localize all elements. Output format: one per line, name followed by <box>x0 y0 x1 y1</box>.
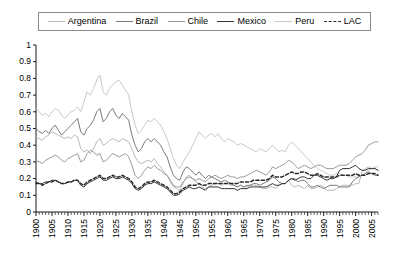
x-tick-label: 1960 <box>223 219 233 238</box>
y-tick-label: 0.4 <box>19 140 31 150</box>
chart-svg: 10.90.80.70.60.50.40.30.20.10 1900190519… <box>0 0 407 261</box>
y-tick-label: 0.6 <box>19 107 31 117</box>
x-tick-label: 1975 <box>271 219 281 238</box>
x-tick-label: 1930 <box>127 219 137 238</box>
x-tick-label: 1940 <box>159 219 169 238</box>
y-tick-label: 0.9 <box>19 56 31 66</box>
y-tick-label: 0.2 <box>19 173 31 183</box>
x-tick-label: 2000 <box>351 219 361 238</box>
y-tick-label: 0.3 <box>19 157 31 167</box>
x-tick-label: 1945 <box>175 219 185 238</box>
y-tick-label: 0.8 <box>19 73 31 83</box>
x-tick-label: 1910 <box>63 219 73 238</box>
x-tick-label: 1925 <box>111 219 121 238</box>
plot-area: 10.90.80.70.60.50.40.30.20.10 1900190519… <box>0 0 407 261</box>
x-tick-label: 1935 <box>143 219 153 238</box>
y-tick-label: 0 <box>26 207 31 217</box>
x-tick-label: 2005 <box>367 219 377 238</box>
x-tick-label: 1900 <box>31 219 41 238</box>
y-tick-label: 0.7 <box>19 90 31 100</box>
x-tick-label: 1955 <box>207 219 217 238</box>
y-tick-label: 1 <box>26 40 31 50</box>
series-line-peru <box>36 75 378 177</box>
chart-figure: ArgentinaBrazilChileMexicoPeruLAC 10.90.… <box>0 0 407 261</box>
x-tick-label: 1985 <box>303 219 313 238</box>
x-tick-label: 1920 <box>95 219 105 238</box>
x-tick-label: 1980 <box>287 219 297 238</box>
x-axis-ticks: 1900190519101915192019251930193519401945… <box>31 212 378 238</box>
x-tick-label: 1950 <box>191 219 201 238</box>
y-tick-label: 0.5 <box>19 123 31 133</box>
x-tick-label: 1995 <box>335 219 345 238</box>
y-tick-label: 0.1 <box>19 190 31 200</box>
x-tick-label: 1965 <box>239 219 249 238</box>
x-tick-label: 1905 <box>47 219 57 238</box>
y-axis-ticks: 10.90.80.70.60.50.40.30.20.10 <box>19 40 36 217</box>
series-line-argentina <box>36 132 378 190</box>
x-tick-label: 1990 <box>319 219 329 238</box>
series-lines <box>36 75 378 195</box>
x-tick-label: 1970 <box>255 219 265 238</box>
x-tick-label: 1915 <box>79 219 89 238</box>
